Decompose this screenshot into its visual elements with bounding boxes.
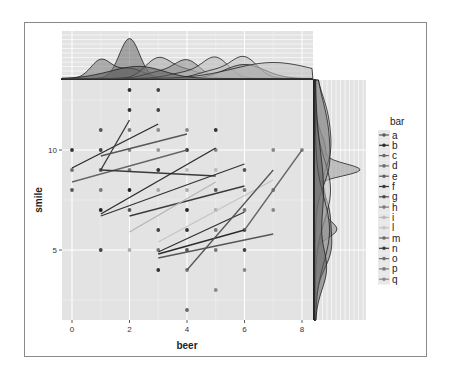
data-point	[243, 168, 247, 172]
data-point	[128, 88, 132, 92]
data-point	[243, 188, 247, 192]
data-point	[99, 208, 103, 212]
data-point	[271, 148, 275, 152]
data-point	[156, 268, 160, 272]
x-axis-title: beer	[176, 340, 197, 351]
data-point	[214, 188, 218, 192]
data-point	[156, 148, 160, 152]
data-point	[243, 208, 247, 212]
data-point	[185, 188, 189, 192]
data-point	[99, 248, 103, 252]
data-point	[185, 168, 189, 172]
data-point	[70, 188, 74, 192]
data-point	[128, 128, 132, 132]
data-point	[185, 308, 189, 312]
y-tick-label: 10	[48, 146, 57, 155]
x-tick-label: 8	[300, 325, 305, 334]
x-tick-label: 2	[127, 325, 132, 334]
legend-item-q: q	[378, 274, 398, 285]
x-axis: 02468	[70, 320, 305, 334]
x-tick-label: 6	[242, 325, 247, 334]
data-point	[214, 248, 218, 252]
data-point	[271, 208, 275, 212]
data-point	[185, 208, 189, 212]
y-axis-title: smile	[33, 187, 44, 213]
data-point	[99, 128, 103, 132]
data-point	[156, 168, 160, 172]
y-tick-label: 5	[53, 246, 58, 255]
data-point	[128, 108, 132, 112]
top-marginal-density	[62, 31, 313, 80]
data-point	[214, 128, 218, 132]
data-point	[70, 148, 74, 152]
legend-title: bar	[390, 116, 405, 127]
data-point	[128, 208, 132, 212]
scatter-chart: 02468 510 beer smile bar abcdefghilmnopq	[0, 0, 450, 377]
data-point	[128, 188, 132, 192]
data-point	[70, 168, 74, 172]
data-point	[185, 228, 189, 232]
x-tick-label: 4	[185, 325, 190, 334]
data-point	[214, 288, 218, 292]
svg-text:q: q	[392, 274, 398, 285]
legend-item-e: e	[378, 171, 398, 182]
data-point	[156, 88, 160, 92]
data-point	[243, 268, 247, 272]
data-point	[214, 168, 218, 172]
x-tick-label: 0	[70, 325, 75, 334]
data-point	[99, 188, 103, 192]
data-point	[185, 128, 189, 132]
main-plot-panel	[62, 80, 313, 320]
y-axis: 510	[48, 146, 62, 255]
data-point	[156, 188, 160, 192]
data-point	[128, 248, 132, 252]
legend: bar abcdefghilmnopq	[378, 116, 405, 285]
data-point	[243, 248, 247, 252]
data-point	[214, 228, 218, 232]
legend-item-h: h	[378, 202, 398, 213]
data-point	[156, 128, 160, 132]
right-marginal-density	[314, 80, 366, 320]
data-point	[99, 148, 103, 152]
data-point	[156, 108, 160, 112]
data-point	[156, 228, 160, 232]
